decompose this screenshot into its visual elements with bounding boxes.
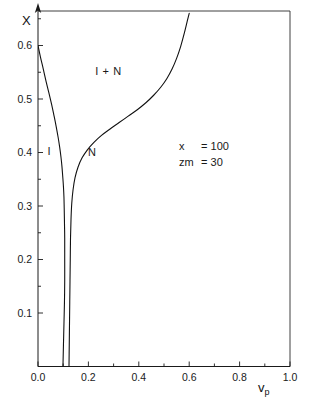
y-axis-title: X: [22, 13, 31, 28]
phase-diagram-svg: 0.00.20.40.60.81.00.10.20.30.40.50.6 I +…: [0, 0, 314, 406]
region-label: N: [88, 146, 97, 158]
y-tick-label: 0.3: [17, 200, 32, 212]
annotation-label: zm: [179, 156, 194, 168]
phase-diagram-figure: 0.00.20.40.60.81.00.10.20.30.40.50.6 I +…: [0, 0, 314, 406]
y-tick-label: 0.5: [17, 93, 32, 105]
y-tick-label: 0.2: [17, 253, 32, 265]
x-tick-label: 1.0: [283, 371, 298, 383]
y-tick-label: 0.1: [17, 307, 32, 319]
region-label: I + N: [95, 65, 122, 77]
figure-background: [0, 0, 314, 406]
region-label: I: [48, 145, 52, 157]
x-tick-label: 0.0: [31, 371, 46, 383]
y-tick-label: 0.4: [17, 146, 32, 158]
annotation-value: = 30: [201, 156, 223, 168]
x-tick-label: 0.6: [182, 371, 197, 383]
annotation-value: = 100: [201, 140, 229, 152]
y-tick-label: 0.6: [17, 39, 32, 51]
x-tick-label: 0.4: [131, 371, 146, 383]
annotation-label: x: [179, 140, 185, 152]
x-tick-label: 0.8: [232, 371, 247, 383]
x-tick-label: 0.2: [81, 371, 96, 383]
